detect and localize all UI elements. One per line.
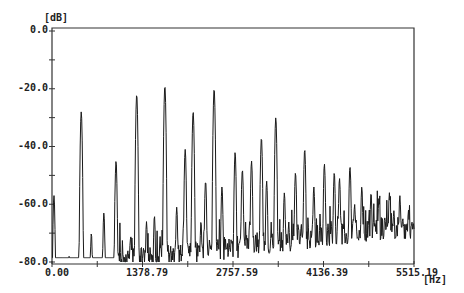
- spectrum-chart: [0, 0, 464, 293]
- y-tick-label-4: -80.0: [4, 256, 48, 267]
- plot-frame: [52, 28, 414, 264]
- spectrum-line: [52, 88, 414, 263]
- x-tick-label-1: 1378.79: [126, 267, 168, 278]
- y-tick-label-2: -40.0: [4, 140, 48, 151]
- y-tick-label-0: 0.0: [4, 24, 48, 35]
- y-axis-unit-label: [dB]: [44, 12, 68, 23]
- y-tick-label-3: -60.0: [4, 198, 48, 209]
- y-tick-label-1: -20.0: [4, 82, 48, 93]
- x-tick-label-0: 0.00: [45, 267, 69, 278]
- x-tick-label-4: 5515.19: [396, 267, 438, 278]
- x-tick-label-2: 2757.59: [216, 267, 258, 278]
- x-tick-label-3: 4136.39: [306, 267, 348, 278]
